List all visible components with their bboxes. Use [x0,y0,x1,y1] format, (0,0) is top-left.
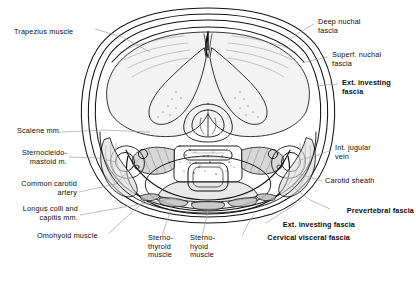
label-common-carotid-artery: Common carotid artery [0,180,77,197]
label-superf-nuchal-fascia: Superf. nuchal fascia [332,51,381,68]
figure-canvas: Trapezius muscle Scalene mm. Sternocleid… [0,0,416,281]
label-prevertebral-fascia: Prevertebral fascia [258,207,414,216]
label-trapezius-muscle: Trapezius muscle [14,28,73,37]
leader-omohyoid [108,200,146,234]
label-scalene-mm: Scalene mm. [17,127,61,136]
label-omohyoid-muscle: Omohyoid muscle [37,232,98,241]
label-int-jugular-vein: Int. jugular vein [335,144,371,161]
label-carotid-sheath: Carotid sheath [325,177,375,186]
label-sternocleidomastoid-m: Sternocleido- mastoid m. [0,149,67,166]
label-sternothyroid-muscle: Sterno- thyroid muscle [148,234,173,260]
esophagus [184,150,232,160]
label-cervical-visceral-fascia: Cervical visceral fascia [178,234,350,243]
label-longus-colli-capitis-mm: Longus colli and capitis mm. [0,205,78,222]
leader-ext-investing [316,84,338,86]
label-deep-nuchal-fascia: Deep nuchal fascia [318,18,361,35]
label-ext-investing-fascia-2: Ext. investing fascia [198,221,355,230]
sternohyoid-muscle-shape [192,202,225,211]
label-ext-investing-fascia: Ext. investing fascia [342,79,391,96]
vertebral-body [174,146,242,182]
